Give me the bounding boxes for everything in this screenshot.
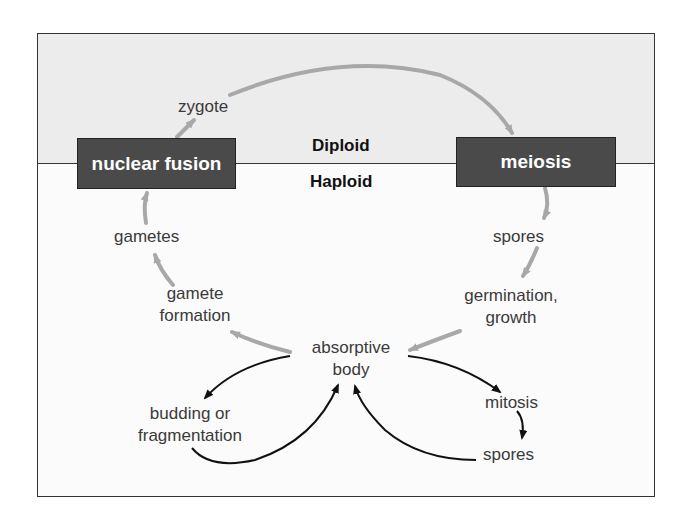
gametes-label: gametes [114,226,179,248]
arrow-gamete-formation-to-gametes [155,255,173,285]
absorptive-text: absorptive [292,337,410,359]
budding-text: budding or [125,403,255,425]
haploid-label: Haploid [310,172,372,192]
arrow-spores-to-body [355,386,476,460]
arrow-body-to-budding [205,356,290,398]
body-text: body [292,359,410,381]
spores-bottom-label: spores [483,444,534,466]
arrow-meiosis-to-spores [544,188,547,218]
diploid-label: Diploid [312,136,370,156]
germination-text: germination, [436,285,586,307]
arrow-fusion-to-zygote [177,120,194,137]
zygote-label: zygote [178,96,228,118]
arrow-germination-to-body [410,331,460,350]
arrow-spores-to-germination [523,248,537,276]
arrow-gametes-to-fusion [145,193,147,223]
meiosis-box: meiosis [456,137,616,187]
gamete-text: gamete [140,283,250,305]
nuclear-fusion-label: nuclear fusion [92,153,222,175]
germination-growth-label: germination, growth [436,285,586,329]
absorptive-body-label: absorptive body [292,337,410,381]
meiosis-label: meiosis [501,151,572,173]
gamete-formation-label: gamete formation [140,283,250,327]
mitosis-label: mitosis [485,392,538,414]
nuclear-fusion-box: nuclear fusion [77,138,236,189]
growth-text: growth [436,307,586,329]
formation-text: formation [140,305,250,327]
arrow-body-to-gamete-formation [232,332,290,352]
budding-fragmentation-label: budding or fragmentation [125,403,255,447]
arrow-body-to-mitosis [408,356,500,392]
arrow-mitosis-to-spores [517,411,523,438]
spores-top-label: spores [493,226,544,248]
fragmentation-text: fragmentation [125,425,255,447]
arrow-zygote-to-meiosis [230,66,512,133]
cycle-arrows [0,0,690,523]
